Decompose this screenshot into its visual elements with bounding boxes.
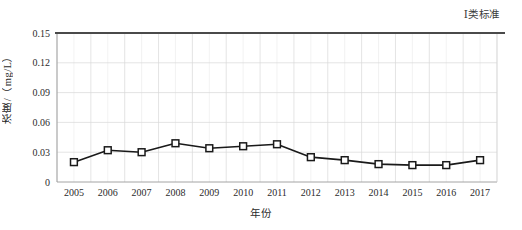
- minor-gridlines: [74, 33, 480, 182]
- x-tick-label: 2012: [301, 187, 321, 198]
- x-tick-label: 2006: [98, 187, 118, 198]
- data-point-marker: [375, 161, 382, 168]
- x-tick-label: 2016: [436, 187, 456, 198]
- y-tick-label: 0.09: [33, 87, 51, 98]
- y-tick-label: 0.12: [33, 57, 51, 68]
- data-point-marker: [443, 162, 450, 169]
- data-point-marker: [307, 154, 314, 161]
- y-tick-label: 0.15: [33, 28, 51, 39]
- data-point-marker: [104, 147, 111, 154]
- y-tick-label: 0.06: [33, 117, 51, 128]
- x-tick-label: 2014: [369, 187, 389, 198]
- x-tick-label: 2010: [233, 187, 253, 198]
- x-tick-label: 2009: [199, 187, 219, 198]
- data-point-marker: [409, 162, 416, 169]
- data-point-marker: [71, 159, 78, 166]
- chart-container: Ⅰ类标准 浓度/（mg/L） 年份 00.030.060.090.120.15 …: [0, 0, 522, 230]
- x-tick-label: 2008: [165, 187, 185, 198]
- x-tick-label: 2011: [267, 187, 287, 198]
- data-point-marker: [477, 157, 484, 164]
- y-tick-label: 0.03: [33, 147, 51, 158]
- data-point-marker: [172, 140, 179, 147]
- x-axis-tick-labels: 2005200620072008200920102011201220132014…: [64, 187, 490, 198]
- x-tick-label: 2015: [402, 187, 422, 198]
- x-tick-label: 2013: [335, 187, 355, 198]
- data-point-marker: [138, 149, 145, 156]
- x-tick-label: 2017: [470, 187, 490, 198]
- x-tick-label: 2007: [132, 187, 152, 198]
- data-point-marker: [341, 157, 348, 164]
- y-axis-tick-labels: 00.030.060.090.120.15: [33, 28, 51, 188]
- x-tick-label: 2005: [64, 187, 84, 198]
- data-point-marker: [274, 141, 281, 148]
- y-tick-label: 0: [45, 177, 50, 188]
- data-point-marker: [206, 145, 213, 152]
- line-chart-plot: 00.030.060.090.120.15 200520062007200820…: [0, 0, 522, 230]
- data-point-marker: [240, 143, 247, 150]
